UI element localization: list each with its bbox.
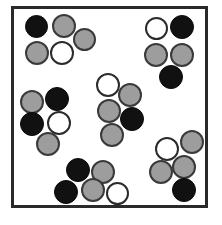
gray-circle [180, 130, 204, 154]
gray-circle [149, 160, 173, 184]
bottom-right-cluster [0, 0, 222, 225]
black-circle [172, 178, 196, 202]
figure-canvas [0, 0, 222, 225]
gray-circle [172, 155, 196, 179]
